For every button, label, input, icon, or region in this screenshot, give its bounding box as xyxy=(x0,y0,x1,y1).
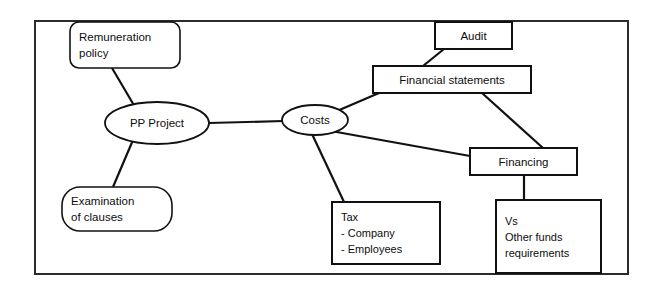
node-vs-other-funds[interactable]: VsOther fundsrequirements xyxy=(496,200,601,273)
node-pp-project[interactable]: PP Project xyxy=(105,102,209,144)
connector-audit-to-financial-statements xyxy=(423,49,444,66)
node-label-remuneration-policy-line-1: Remuneration xyxy=(79,31,151,43)
node-label-vs-other-funds-line-1: Vs xyxy=(505,215,518,227)
node-financial-statements[interactable]: Financial statements xyxy=(373,66,531,93)
node-label-tax-line-1: Tax xyxy=(341,211,359,223)
connector-financial-statements-to-financing xyxy=(482,93,543,148)
connector-costs-to-financing xyxy=(331,131,470,156)
connector-costs-to-financial-statements xyxy=(337,93,379,111)
node-tax[interactable]: Tax - Company - Employees xyxy=(332,202,440,264)
node-label-financing-line-1: Financing xyxy=(499,156,549,168)
node-audit[interactable]: Audit xyxy=(435,22,512,49)
diagram-canvas: RemunerationpolicyPP ProjectExaminationo… xyxy=(0,0,657,291)
node-costs[interactable]: Costs xyxy=(282,105,348,135)
node-label-financial-statements-line-1: Financial statements xyxy=(399,74,505,86)
node-label-pp-project-line-1: PP Project xyxy=(130,117,185,129)
node-label-audit-line-1: Audit xyxy=(460,30,487,42)
node-remuneration-policy[interactable]: Remunerationpolicy xyxy=(70,22,180,68)
node-shape-remuneration-policy xyxy=(70,22,180,68)
connector-remuneration-to-pp-project xyxy=(112,68,135,107)
node-label-tax-line-3: - Employees xyxy=(341,243,403,255)
connector-pp-project-to-examination xyxy=(113,140,133,187)
node-label-costs-line-1: Costs xyxy=(300,114,330,126)
node-label-examination-of-clauses-line-1: Examination xyxy=(71,195,134,207)
concept-map-svg: RemunerationpolicyPP ProjectExaminationo… xyxy=(0,0,657,291)
connector-costs-to-tax xyxy=(312,134,344,202)
node-layer: RemunerationpolicyPP ProjectExaminationo… xyxy=(62,22,601,273)
node-financing[interactable]: Financing xyxy=(470,148,577,175)
node-label-examination-of-clauses-line-2: of clauses xyxy=(71,211,123,223)
node-label-remuneration-policy-line-2: policy xyxy=(79,47,109,59)
node-shape-examination-of-clauses xyxy=(62,187,172,231)
connector-pp-project-to-costs xyxy=(209,121,283,123)
node-label-tax-line-2: - Company xyxy=(341,227,395,239)
node-examination-of-clauses[interactable]: Examinationof clauses xyxy=(62,187,172,231)
node-label-vs-other-funds-line-3: requirements xyxy=(505,247,570,259)
node-label-vs-other-funds-line-2: Other funds xyxy=(505,231,563,243)
